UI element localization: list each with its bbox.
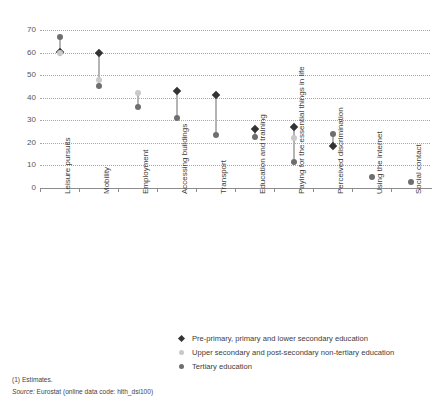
y-axis-tick-label: 50 <box>6 71 36 79</box>
x-axis-label: Using the internet <box>375 131 384 194</box>
x-axis-tickmark <box>196 188 197 192</box>
footnote-source-text: Eurostat (online data code: hlth_dsi100) <box>35 388 153 395</box>
footnotes: (1) Estimates. Source: Eurostat (online … <box>12 375 312 397</box>
x-axis-tickmark <box>40 188 41 192</box>
chart-container: 010203040506070 Pre-primary, primary and… <box>0 0 442 404</box>
light-circle-marker-icon <box>176 350 186 355</box>
legend-item-tertiary: Tertiary education <box>176 361 436 372</box>
gridline <box>40 120 430 121</box>
x-axis-label: Transport <box>219 160 228 194</box>
y-axis-ticks: 010203040506070 <box>0 30 36 188</box>
data-point <box>96 77 102 83</box>
x-axis-tickmark <box>274 188 275 192</box>
x-axis-label: Perceived discrimination <box>336 107 345 194</box>
plot-area <box>40 30 430 188</box>
x-axis-label: Leisure pursuits <box>63 138 72 194</box>
x-axis-label: Accessing buildings <box>180 124 189 194</box>
x-axis-tickmark <box>235 188 236 192</box>
y-axis-tick-label: 30 <box>6 116 36 124</box>
range-connector <box>215 95 217 135</box>
data-point <box>252 134 258 140</box>
x-axis-line <box>40 188 432 189</box>
mid-circle-marker-icon <box>176 364 186 369</box>
legend-label-upper-secondary: Upper secondary and post-secondary non-t… <box>192 348 394 357</box>
data-point <box>57 50 63 56</box>
data-point <box>57 34 63 40</box>
x-axis-tickmark <box>79 188 80 192</box>
data-point <box>94 48 102 56</box>
footnote-source: Source: Eurostat (online data code: hlth… <box>12 387 312 397</box>
y-axis-tick-label: 40 <box>6 94 36 102</box>
data-point <box>174 115 180 121</box>
x-axis-label: Employment <box>141 150 150 194</box>
x-axis-tickmark <box>352 188 353 192</box>
legend-label-pre-primary: Pre-primary, primary and lower secondary… <box>192 334 368 343</box>
gridline <box>40 30 430 31</box>
data-point <box>135 104 141 110</box>
gridline <box>40 165 430 166</box>
x-axis-label: Paying for the essential things in life <box>297 66 306 194</box>
range-connector <box>293 127 295 162</box>
footnote-estimates: (1) Estimates. <box>12 375 312 385</box>
legend-label-tertiary: Tertiary education <box>192 362 252 371</box>
data-point <box>135 90 141 96</box>
legend-item-pre-primary: Pre-primary, primary and lower secondary… <box>176 333 436 344</box>
x-axis-label: Mobility <box>102 167 111 194</box>
gridline <box>40 143 430 144</box>
data-point <box>172 87 180 95</box>
data-point <box>330 131 336 137</box>
data-point <box>291 159 297 165</box>
y-axis-tick-label: 0 <box>6 184 36 192</box>
data-point <box>96 83 102 89</box>
footnote-source-prefix: Source: <box>12 388 35 395</box>
x-axis-tickmark <box>157 188 158 192</box>
y-axis-tick-label: 60 <box>6 49 36 57</box>
data-point <box>291 135 297 141</box>
x-axis-tickmark <box>391 188 392 192</box>
data-point <box>369 174 375 180</box>
data-point <box>213 132 219 138</box>
gridline <box>40 98 430 99</box>
y-axis-tick-label: 70 <box>6 26 36 34</box>
legend-item-upper-secondary: Upper secondary and post-secondary non-t… <box>176 347 436 358</box>
y-axis-tick-label: 20 <box>6 139 36 147</box>
x-axis-label: Social contact <box>414 144 423 194</box>
chart-legend: Pre-primary, primary and lower secondary… <box>176 333 436 375</box>
diamond-marker-icon <box>176 336 186 341</box>
data-point <box>408 179 414 185</box>
x-axis-label: Education and training <box>258 114 267 194</box>
y-axis-tick-label: 10 <box>6 161 36 169</box>
x-axis-tickmark <box>118 188 119 192</box>
x-axis-tickmark <box>313 188 314 192</box>
